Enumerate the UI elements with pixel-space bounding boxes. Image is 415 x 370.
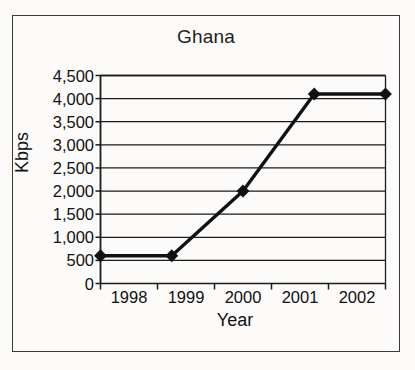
x-tick-label: 2001 [282, 288, 319, 307]
x-tick-label: 2002 [339, 288, 376, 307]
data-line [101, 94, 386, 256]
x-tick-label: 2000 [225, 288, 262, 307]
chart-figure: Ghana Kbps 4,5004,0003,5003,0002,5002,00… [0, 0, 415, 370]
plot-frame [101, 76, 386, 284]
x-tick-label: 1998 [111, 288, 148, 307]
data-markers [95, 88, 391, 261]
gridlines [101, 76, 386, 284]
x-tick-label: 1999 [168, 288, 205, 307]
x-axis-label: Year [100, 310, 370, 331]
